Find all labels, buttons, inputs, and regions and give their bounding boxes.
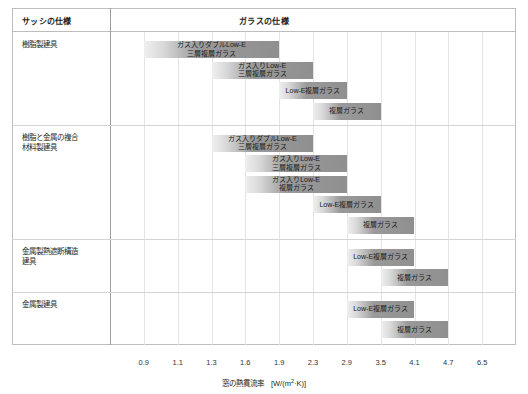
glass-column-header: ガラスの仕様: [0, 15, 528, 26]
glass-spec-bar[interactable]: [347, 249, 415, 266]
x-tick-label: 2.9: [334, 358, 360, 367]
section-divider: [12, 125, 516, 126]
sash-row-label: 樹脂製建具: [22, 40, 110, 50]
x-tick-label: 2.3: [300, 358, 326, 367]
x-tick-label: 0.9: [131, 358, 157, 367]
x-tick-label: 1.9: [266, 358, 292, 367]
glass-spec-bar[interactable]: [313, 196, 381, 213]
glass-spec-bar[interactable]: [245, 155, 347, 172]
x-tick-label: 4.1: [402, 358, 428, 367]
x-tick-label: 4.7: [435, 358, 461, 367]
glass-spec-bar[interactable]: [313, 103, 381, 120]
x-axis-title: 窓の熱貫流率 [W/(m2·K)]: [0, 377, 528, 388]
glass-spec-bar[interactable]: [212, 62, 314, 79]
gridline-1.1: [178, 32, 179, 345]
section-divider: [12, 292, 516, 293]
glass-spec-bar[interactable]: [381, 269, 449, 286]
glass-spec-bar[interactable]: [212, 135, 314, 152]
column-divider: [110, 8, 111, 345]
x-axis-title-suffix: ·K)]: [294, 379, 306, 388]
x-tick-label: 1.6: [232, 358, 258, 367]
x-axis-title-prefix: 窓の熱貫流率 [W/(m: [222, 379, 291, 388]
x-tick-label: 3.5: [368, 358, 394, 367]
sash-row-label: 樹脂と金属の複合 材料製建具: [22, 133, 110, 153]
glass-spec-bar[interactable]: [144, 41, 279, 58]
x-tick-label: 1.1: [165, 358, 191, 367]
gridline-2.9: [347, 32, 348, 345]
x-tick-label: 1.3: [199, 358, 225, 367]
gridline-4.1: [415, 32, 416, 345]
gridline-0.9: [144, 32, 145, 345]
x-tick-label: 6.5: [469, 358, 495, 367]
sash-row-label: 金属製熱遮断構造 建具: [22, 247, 110, 267]
section-divider: [12, 239, 516, 240]
glass-spec-bar[interactable]: [245, 176, 347, 193]
glass-spec-bar[interactable]: [279, 82, 347, 99]
header-divider: [12, 31, 516, 32]
thermal-transmittance-chart: サッシの仕様 ガラスの仕様 樹脂製建具ガス入りダブルLow-E 三層複層ガラスガ…: [0, 0, 528, 394]
gridline-6.5: [482, 32, 483, 345]
gridline-4.7: [448, 32, 449, 345]
gridline-3.5: [381, 32, 382, 345]
gridline-1.3: [212, 32, 213, 345]
glass-spec-bar[interactable]: [347, 301, 415, 318]
glass-spec-bar[interactable]: [347, 217, 415, 234]
sash-row-label: 金属製建具: [22, 300, 110, 310]
glass-spec-bar[interactable]: [381, 321, 449, 338]
